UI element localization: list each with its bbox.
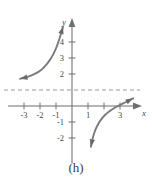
coordinate-plane: -3 -2 -1 1 3 4 3 2 -1 -2 y x xyxy=(0,0,152,187)
y-tick-label-3: 3 xyxy=(60,53,64,63)
x-axis-label: x xyxy=(141,108,146,118)
y-axis-arrowhead xyxy=(69,18,76,27)
y-tick-label--2: -2 xyxy=(57,133,64,143)
curve-upper-left-start-arrowhead xyxy=(20,74,28,79)
y-axis-label: y xyxy=(61,17,66,27)
curve-upper-left-branch xyxy=(20,27,63,79)
x-tick-label--2: -2 xyxy=(36,110,43,120)
x-tick-label-3: 3 xyxy=(118,110,122,120)
figure-caption: (h) xyxy=(0,160,152,176)
curve-upper-left-end-arrowhead xyxy=(58,27,63,35)
math-graph-figure: -3 -2 -1 1 3 4 3 2 -1 -2 y x (h) xyxy=(0,0,152,187)
curve-lower-right-end-arrowhead xyxy=(125,98,133,104)
x-axis-arrowhead xyxy=(133,103,142,110)
y-tick-label-2: 2 xyxy=(60,69,64,79)
curve-group xyxy=(20,27,133,147)
y-tick-label--1: -1 xyxy=(57,117,64,127)
x-tick-label--3: -3 xyxy=(20,110,27,120)
x-tick-label-1: 1 xyxy=(86,110,90,120)
